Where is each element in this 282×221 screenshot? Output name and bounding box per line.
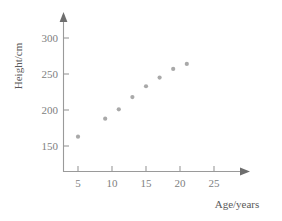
data-point <box>130 95 134 99</box>
y-axis-tick-labels: 300 250 200 150 <box>42 32 59 152</box>
x-tick-label-10: 10 <box>107 177 119 189</box>
x-axis-ticks <box>78 166 214 172</box>
data-point <box>171 67 175 71</box>
y-axis-arrow-icon <box>60 12 68 22</box>
y-tick-label-200: 200 <box>42 104 59 116</box>
data-point <box>185 62 189 66</box>
x-tick-label-25: 25 <box>209 177 221 189</box>
data-point <box>117 107 121 111</box>
data-point <box>76 135 80 139</box>
scatter-chart: 300 250 200 150 5 10 15 20 25 Age/years … <box>0 0 282 221</box>
x-axis-title: Age/years <box>215 198 260 210</box>
y-axis-title: Height/cm <box>12 42 24 89</box>
x-axis-arrow-icon <box>240 168 250 176</box>
data-point <box>103 117 107 121</box>
x-axis-tick-labels: 5 10 15 20 25 <box>75 177 220 189</box>
y-tick-label-300: 300 <box>42 32 59 44</box>
y-tick-label-250: 250 <box>42 68 59 80</box>
x-tick-label-15: 15 <box>141 177 153 189</box>
data-point <box>158 76 162 80</box>
y-axis-ticks <box>64 38 70 146</box>
x-tick-label-20: 20 <box>175 177 187 189</box>
data-point-group <box>76 62 189 139</box>
y-tick-label-150: 150 <box>42 140 59 152</box>
x-tick-label-5: 5 <box>75 177 81 189</box>
plot-area: 300 250 200 150 5 10 15 20 25 Age/years … <box>0 0 282 221</box>
data-point <box>144 84 148 88</box>
